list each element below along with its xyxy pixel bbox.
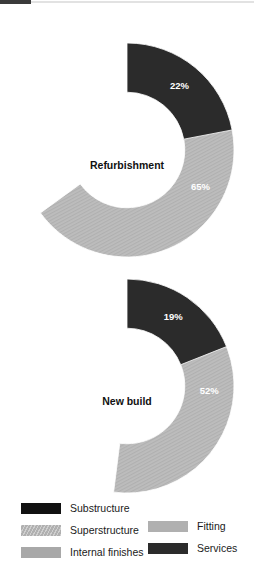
donut-slice [127, 43, 232, 139]
legend-item[interactable]: Substructure [21, 500, 144, 517]
slice-value-label: 52% [200, 385, 220, 396]
legend-swatch [148, 543, 188, 554]
legend-item[interactable]: Services [148, 540, 237, 557]
legend-swatch [148, 521, 188, 532]
donut-svg: 14%52%12%3%19%New build [0, 272, 254, 500]
legend-label: Services [197, 543, 237, 554]
donut-chart-refurbishment: 3%65%4%6%22%Refurbishment [0, 36, 254, 264]
legend-label: Substructure [70, 503, 130, 514]
legend-column-right: FittingServices [148, 518, 237, 562]
header-accent-bar [0, 0, 31, 4]
donut-chart-new-build: 14%52%12%3%19%New build [0, 272, 254, 500]
slice-value-label: 19% [164, 311, 184, 322]
legend-item[interactable]: Internal finishes [21, 544, 144, 561]
donut-center-label: New build [102, 395, 152, 407]
slice-value-label: 22% [170, 80, 190, 91]
legend-item[interactable]: Superstructure [21, 522, 144, 539]
header-rule [31, 1, 254, 3]
legend-label: Superstructure [70, 525, 139, 536]
donut-svg: 3%65%4%6%22%Refurbishment [0, 36, 254, 264]
legend-swatch [21, 547, 61, 558]
chart-legend: SubstructureSuperstructureInternal finis… [0, 500, 254, 574]
legend-swatch [21, 503, 61, 514]
legend-item[interactable]: Fitting [148, 518, 237, 535]
legend-swatch [21, 525, 61, 536]
donut-center-label: Refurbishment [90, 159, 165, 171]
legend-label: Fitting [197, 521, 226, 532]
slice-value-label: 65% [191, 181, 211, 192]
legend-column-left: SubstructureSuperstructureInternal finis… [21, 500, 144, 566]
legend-label: Internal finishes [70, 547, 144, 558]
